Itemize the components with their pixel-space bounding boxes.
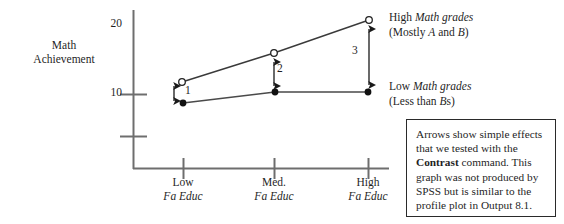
legend-high-line2: (Mostly A and B) [389, 25, 564, 40]
legend-high-line2-post: ) [465, 26, 469, 38]
legend-entry-high: High Math grades (Mostly A and B) [389, 10, 564, 40]
note-box: Arrows show simple effects that we teste… [406, 119, 556, 217]
series-low-math-grades [180, 89, 372, 107]
data-point-high-med [271, 50, 278, 57]
y-axis-title-line1: Math [52, 39, 76, 51]
legend-entry-low: Low Math grades (Less than Bs) [389, 79, 564, 109]
data-point-high-high [366, 17, 373, 24]
y-axis-title: Math Achievement [12, 38, 116, 66]
legend-high-emphasis: Math grades [415, 11, 473, 23]
note-line5: SPSS but is similar to the [416, 185, 531, 197]
y-tick-label-10: 10 [80, 86, 122, 98]
note-line3-rest: command. This [459, 156, 532, 168]
simple-effect-label-2: 2 [277, 62, 283, 74]
x-tick-variable-high: Fa Educ [325, 190, 411, 204]
simple-effect-label-3: 3 [352, 44, 358, 56]
simple-effect-label-1: 1 [185, 84, 191, 96]
series-high-math-grades [179, 17, 373, 86]
x-tick-label-low: Low Fa Educ [140, 176, 226, 203]
note-line1: Arrows show simple effects [416, 128, 542, 140]
legend-low-emphasis: Math grades [413, 80, 471, 92]
data-point-low-high [365, 89, 372, 96]
x-tick-label-med: Med. Fa Educ [231, 176, 317, 203]
x-tick-variable-med: Fa Educ [231, 190, 317, 204]
chart-figure: Math Achievement 20 10 Low Fa Educ Med. … [0, 0, 564, 224]
y-axis-title-line2: Achievement [33, 53, 94, 65]
note-command-name: Contrast [416, 156, 459, 168]
x-tick-level-low: Low [140, 176, 226, 190]
x-tick-label-high: High Fa Educ [325, 176, 411, 203]
legend-high-grade-b: B [458, 26, 465, 38]
legend-high-line2-prefix: (Mostly [389, 26, 428, 38]
x-tick-variable-low: Fa Educ [140, 190, 226, 204]
legend-low-line2-prefix: (Less than [389, 95, 439, 107]
y-axis [120, 10, 147, 169]
y-tick-label-20: 20 [80, 17, 122, 29]
legend-low-line2-post: s) [447, 95, 455, 107]
legend-high-prefix: High [389, 11, 415, 23]
legend-high-line1: High Math grades [389, 10, 564, 25]
data-point-low-low [180, 100, 187, 107]
note-line6: profile plot in Output 8.1. [416, 199, 532, 211]
x-tick-level-high: High [325, 176, 411, 190]
legend-low-prefix: Low [389, 80, 413, 92]
legend-low-grade-b: B [439, 95, 446, 107]
note-line4: graph was not produced by [416, 171, 538, 183]
note-line2: that we tested with the [416, 142, 518, 154]
legend-high-line2-mid: and [435, 26, 457, 38]
data-point-low-med [272, 89, 279, 96]
x-tick-level-med: Med. [231, 176, 317, 190]
legend-low-line1: Low Math grades [389, 79, 564, 94]
legend-low-line2: (Less than Bs) [389, 94, 564, 109]
